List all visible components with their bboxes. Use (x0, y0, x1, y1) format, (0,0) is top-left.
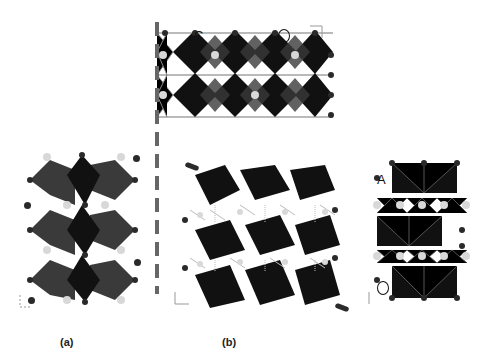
panel-a-structure (25, 150, 140, 305)
axis-indicator-a (18, 293, 34, 309)
octahedra-panel-b-graphic (180, 160, 340, 310)
axis-indicator-b (173, 290, 191, 308)
annotation-letter-o-top (278, 29, 290, 43)
atom-a-1 (133, 155, 140, 162)
caption-a: (a) (60, 336, 73, 348)
panel-b-side-structure (372, 158, 472, 303)
annotation-letter-o-bottom (377, 281, 389, 295)
axis-arrows-icon (18, 293, 34, 309)
atom-a-3 (134, 259, 141, 266)
annotation-letter-c: C (194, 28, 203, 43)
atom-a-2 (24, 202, 31, 209)
octahedra-panel-a-graphic (25, 150, 140, 305)
axis-arrow-icon (364, 290, 374, 306)
panel-divider (155, 22, 159, 294)
axis-arrows-icon (306, 22, 326, 42)
panel-b-perspective-structure (180, 160, 340, 310)
axis-indicator-side (364, 290, 374, 306)
annotation-letter-a: A (377, 172, 386, 187)
axis-indicator-top (306, 22, 326, 42)
octahedra-side-view-graphic (372, 158, 472, 303)
caption-b: (b) (222, 336, 236, 348)
axis-arrows-icon (173, 290, 191, 308)
atom-cluster-b-2 (335, 303, 350, 312)
